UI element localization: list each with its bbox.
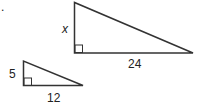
right-angle-marker (75, 45, 83, 53)
label-x: x (61, 22, 69, 36)
similar-triangles-diagram: . x 24 5 12 (0, 0, 199, 106)
small-triangle: 5 12 (9, 61, 83, 105)
label-24: 24 (128, 57, 142, 71)
item-marker: . (1, 0, 4, 14)
label-12: 12 (47, 91, 61, 105)
label-5: 5 (9, 67, 16, 81)
large-triangle: x 24 (61, 3, 193, 72)
right-angle-marker (24, 78, 32, 86)
